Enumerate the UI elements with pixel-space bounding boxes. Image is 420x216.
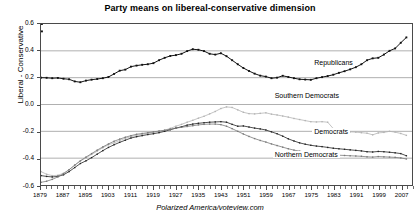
- x-tick-major: [153, 186, 154, 190]
- x-tick-minor: [385, 186, 386, 189]
- x-tick-major: [221, 186, 222, 190]
- x-tick-minor: [340, 186, 341, 189]
- x-tick-major: [356, 186, 357, 190]
- x-tick-major: [63, 186, 64, 190]
- y-tick-mark: [37, 77, 40, 78]
- y-tick-label: 0.4: [8, 47, 34, 54]
- x-tick-minor: [136, 186, 137, 189]
- x-tick-major: [402, 186, 403, 190]
- x-tick-minor: [80, 186, 81, 189]
- x-tick-minor: [317, 186, 318, 189]
- x-tick-minor: [181, 186, 182, 189]
- y-tick-label: -0.2: [8, 128, 34, 135]
- x-tick-minor: [362, 186, 363, 189]
- x-tick-minor: [204, 186, 205, 189]
- x-tick-minor: [125, 186, 126, 189]
- series-label-southern-democrats: Southern Democrats: [273, 92, 341, 100]
- x-tick-minor: [57, 186, 58, 189]
- x-tick-minor: [113, 186, 114, 189]
- x-tick-minor: [210, 186, 211, 189]
- x-tick-minor: [368, 186, 369, 189]
- y-tick-label: -0.4: [8, 155, 34, 162]
- x-tick-minor: [227, 186, 228, 189]
- x-tick-minor: [260, 186, 261, 189]
- x-tick-minor: [390, 186, 391, 189]
- x-tick-minor: [249, 186, 250, 189]
- chart-figure: Party means on libereal-conservative dim…: [0, 0, 420, 216]
- x-tick-major: [108, 186, 109, 190]
- x-tick-major: [243, 186, 244, 190]
- x-tick-minor: [238, 186, 239, 189]
- x-tick-minor: [68, 186, 69, 189]
- y-tick-label: 0.6: [8, 20, 34, 27]
- x-tick-minor: [51, 186, 52, 189]
- x-tick-major: [130, 186, 131, 190]
- x-tick-minor: [306, 186, 307, 189]
- x-tick-minor: [91, 186, 92, 189]
- page-title: Party means on libereal-conservative dim…: [0, 3, 420, 13]
- series-label-northern-democrats: Northern Democrats: [273, 151, 340, 159]
- x-tick-minor: [300, 186, 301, 189]
- y-tick-mark: [37, 132, 40, 133]
- x-tick-minor: [407, 186, 408, 189]
- y-tick-mark: [37, 50, 40, 51]
- x-tick-minor: [373, 186, 374, 189]
- x-tick-major: [85, 186, 86, 190]
- x-tick-minor: [413, 186, 414, 189]
- x-tick-minor: [272, 186, 273, 189]
- x-tick-minor: [97, 186, 98, 189]
- x-tick-minor: [351, 186, 352, 189]
- x-tick-minor: [255, 186, 256, 189]
- x-tick-major: [40, 186, 41, 190]
- x-tick-major: [311, 186, 312, 190]
- x-tick-minor: [164, 186, 165, 189]
- y-tick-mark: [37, 159, 40, 160]
- x-tick-major: [379, 186, 380, 190]
- x-tick-minor: [323, 186, 324, 189]
- chart-caption: Polarized America/voteview.com: [0, 203, 420, 212]
- x-tick-minor: [345, 186, 346, 189]
- x-tick-minor: [46, 186, 47, 189]
- plot-area: RepublicansSouthern DemocratsDemocratsNo…: [40, 23, 413, 186]
- x-tick-minor: [232, 186, 233, 189]
- x-tick-minor: [193, 186, 194, 189]
- series-label-democrats: Democrats: [312, 128, 350, 136]
- x-tick-minor: [170, 186, 171, 189]
- x-tick-minor: [159, 186, 160, 189]
- x-tick-minor: [102, 186, 103, 189]
- x-tick-minor: [147, 186, 148, 189]
- y-tick-label: 0.2: [8, 74, 34, 81]
- x-tick-minor: [142, 186, 143, 189]
- x-tick-major: [266, 186, 267, 190]
- x-tick-minor: [215, 186, 216, 189]
- x-tick-minor: [187, 186, 188, 189]
- series-label-republicans: Republicans: [312, 59, 355, 67]
- x-tick-minor: [294, 186, 295, 189]
- y-tick-label: 0.0: [8, 101, 34, 108]
- x-tick-label: 2007: [387, 192, 417, 198]
- series-annotations: RepublicansSouthern DemocratsDemocratsNo…: [41, 24, 412, 185]
- y-tick-mark: [37, 105, 40, 106]
- x-tick-major: [289, 186, 290, 190]
- y-tick-label: -0.6: [8, 183, 34, 190]
- x-tick-major: [176, 186, 177, 190]
- x-tick-major: [334, 186, 335, 190]
- x-tick-minor: [328, 186, 329, 189]
- x-tick-minor: [283, 186, 284, 189]
- x-tick-major: [198, 186, 199, 190]
- x-tick-minor: [277, 186, 278, 189]
- y-tick-mark: [37, 23, 40, 24]
- x-tick-minor: [396, 186, 397, 189]
- x-tick-minor: [119, 186, 120, 189]
- x-tick-minor: [74, 186, 75, 189]
